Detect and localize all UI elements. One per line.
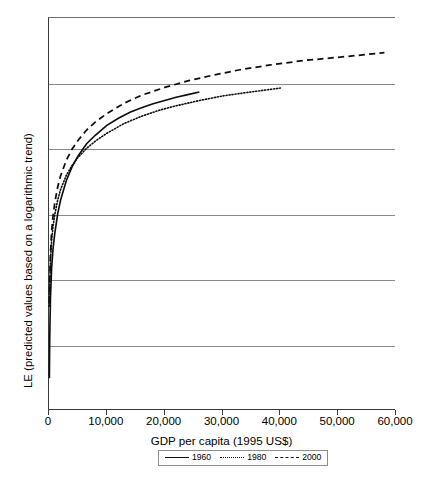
x-axis-tick-label: 60,000 (360, 415, 424, 427)
legend-entry-2000: 2000 (275, 453, 321, 462)
legend-label: 1980 (247, 453, 266, 462)
legend-entry-1960: 1960 (165, 453, 211, 462)
curve-2000 (49, 53, 384, 303)
y-axis-label: LE (predicted values based on a logarith… (22, 133, 34, 388)
legend-label: 2000 (302, 453, 321, 462)
chart-figure: LE (predicted values based on a logarith… (0, 0, 424, 478)
plot-area (48, 17, 395, 410)
legend: 196019802000 (158, 450, 328, 466)
legend-line-solid-icon (165, 454, 189, 462)
legend-line-dashed-icon (275, 454, 299, 462)
legend-entry-1980: 1980 (220, 453, 266, 462)
series-curves (49, 18, 396, 411)
x-axis-label: GDP per capita (1995 US$) (48, 434, 395, 447)
curve-1980 (49, 88, 280, 306)
curve-1960 (49, 92, 199, 378)
y-axis-label-container: LE (predicted values based on a logarith… (0, 0, 30, 430)
legend-label: 1960 (192, 453, 211, 462)
legend-line-dotted-icon (220, 454, 244, 462)
